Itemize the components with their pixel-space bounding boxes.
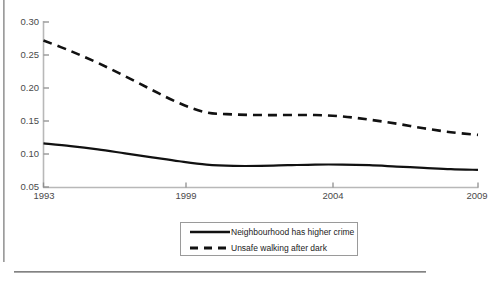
chart-legend: Neighbourhood has higher crime Unsafe wa…: [180, 222, 358, 256]
dashed-line-sample: [190, 242, 230, 254]
y-tick-label-030: 0.30: [7, 16, 39, 27]
x-tick-label-1999: 1999: [166, 190, 206, 201]
legend-item-neighbourhood-higher-crime: Neighbourhood has higher crime: [181, 223, 357, 240]
x-tick-label-2004: 2004: [313, 190, 353, 201]
legend-label-unsafe-walking-after-dark: Unsafe walking after dark: [231, 243, 327, 253]
solid-line-sample: [190, 226, 230, 238]
x-tick-label-1993: 1993: [24, 190, 64, 201]
y-tick-label-020: 0.20: [7, 82, 39, 93]
y-tick-label-010: 0.10: [7, 148, 39, 159]
series-line-unsafe-walking-after-dark: [44, 40, 479, 134]
x-tick-label-2009: 2009: [457, 190, 497, 201]
series-line-neighbourhood-higher-crime: [44, 143, 479, 169]
y-tick-label-025: 0.25: [7, 49, 39, 60]
legend-label-neighbourhood-higher-crime: Neighbourhood has higher crime: [231, 227, 354, 237]
footnote-divider: [14, 271, 426, 273]
footnote-clipped-text: [16, 279, 476, 284]
y-axis-ticks: [44, 22, 50, 187]
y-tick-label-015: 0.15: [7, 115, 39, 126]
figure-container: 0.30 0.25 0.20 0.15 0.10 0.05 1993 1999 …: [0, 0, 501, 284]
legend-item-unsafe-walking-after-dark: Unsafe walking after dark: [181, 239, 357, 256]
